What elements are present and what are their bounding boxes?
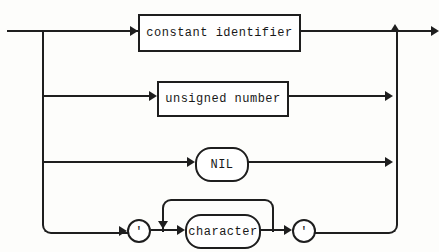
nil-node: NIL [195,147,249,182]
unsigned-number-label: unsigned number [165,92,281,106]
branch2-line-right [285,95,385,97]
nil-label: NIL [210,158,233,172]
arrow-into-close-quote-icon [284,225,292,235]
constant-identifier-label: constant identifier [146,26,292,40]
open-quote-label: ' [135,224,143,239]
syntax-diagram: constant identifier unsigned number NIL … [0,0,439,252]
character-label: character [188,225,257,239]
branch3-merge-arrow-icon [385,157,393,167]
close-quote-label: ' [300,224,308,239]
branch3-line-left [42,161,187,163]
exit-arrow-icon [431,26,439,36]
close-quote-node: ' [292,219,316,243]
arrow-into-open-quote-icon [119,226,127,236]
branch-split-rail [42,30,130,234]
arrow-into-constant-identifier-icon [130,26,138,36]
constant-identifier-box: constant identifier [138,14,301,52]
branch2-line-left [42,95,149,97]
arrow-into-nil-icon [187,157,195,167]
character-node: character [185,214,261,249]
merge-up-arrow-icon [390,24,400,32]
branch3-line-right [245,161,385,163]
unsigned-number-box: unsigned number [157,81,289,117]
open-quote-node: ' [127,219,151,243]
arrow-into-unsigned-number-icon [149,91,157,101]
branch-merge-rail [313,30,398,234]
branch2-merge-arrow-icon [385,91,393,101]
